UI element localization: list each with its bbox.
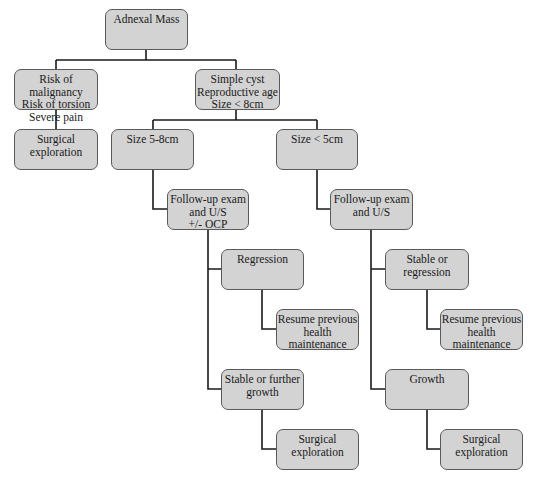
node-regression: Regression [221, 249, 304, 290]
connector-line [153, 110, 317, 129]
node-stable-or-regression: Stable or regression [385, 249, 469, 290]
connector-line [56, 50, 236, 69]
connector-line [262, 410, 276, 449]
node-simple-cyst: Simple cyst Reproductive age Size < 8cm [195, 69, 280, 110]
connector-line [371, 230, 385, 389]
node-size-under-5cm: Size < 5cm [276, 129, 358, 170]
node-adnexal-mass: Adnexal Mass [105, 9, 188, 50]
node-follow-up-ocp: Follow-up exam and U/S +/- OCP [167, 189, 249, 230]
node-follow-up: Follow-up exam and U/S [330, 189, 413, 230]
node-resume-maintenance-right: Resume previous health maintenance [440, 309, 523, 350]
node-stable-or-further-growth: Stable or further growth [221, 369, 304, 410]
node-growth: Growth [385, 369, 469, 410]
node-surgical-exploration-right: Surgical exploration [440, 429, 523, 470]
node-resume-maintenance-left: Resume previous health maintenance [276, 309, 359, 350]
connector-line [208, 230, 221, 389]
connector-line [427, 410, 440, 449]
flowchart: Adnexal Mass Risk of malignancy Risk of … [0, 0, 538, 480]
node-surgical-exploration-mid: Surgical exploration [276, 429, 359, 470]
node-risk-factors: Risk of malignancy Risk of torsion Sever… [14, 69, 98, 110]
node-surgical-exploration-risk: Surgical exploration [14, 129, 98, 170]
node-size-5-8cm: Size 5-8cm [111, 129, 194, 170]
connector-line [317, 170, 330, 209]
connector-line [427, 290, 440, 329]
connector-line [153, 170, 167, 209]
connector-line [262, 290, 276, 329]
